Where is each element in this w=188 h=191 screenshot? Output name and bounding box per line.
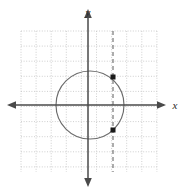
x-axis	[7, 101, 166, 109]
upper-intersection-point	[111, 75, 116, 80]
y-axis-arrow-down	[84, 178, 92, 187]
graph-figure: y x	[0, 0, 188, 191]
lower-intersection-point	[111, 128, 116, 133]
y-axis-label: y	[85, 6, 91, 18]
grid	[21, 31, 157, 172]
x-axis-arrow-right	[157, 101, 166, 109]
x-axis-label: x	[172, 99, 178, 111]
x-axis-arrow-left	[7, 101, 16, 109]
coordinate-plane-svg: y x	[0, 0, 188, 191]
y-axis	[84, 9, 92, 187]
